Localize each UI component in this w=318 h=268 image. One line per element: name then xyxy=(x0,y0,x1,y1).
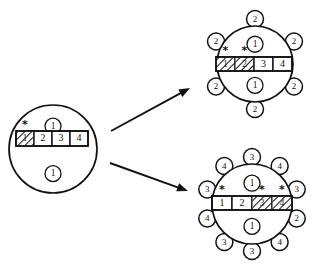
bar-cell-label-2: 2 xyxy=(242,58,247,69)
pendant-token-3: 3 xyxy=(244,243,261,260)
arrow-shaft xyxy=(110,163,180,188)
star-marker: * xyxy=(22,118,28,131)
bar-cell-label-1: 1 xyxy=(220,197,225,208)
pendant-label: 3 xyxy=(250,246,255,256)
pendant-label: 2 xyxy=(214,36,219,46)
bar-cell-label-2: 2 xyxy=(41,132,46,143)
top-token-label: 1 xyxy=(51,121,56,131)
star-marker: * xyxy=(219,183,225,196)
bar-cell-label-1: 1 xyxy=(223,58,228,69)
arrow-head xyxy=(176,183,188,191)
pendant-label: 2 xyxy=(294,213,299,223)
bar-cell-label-1: 1 xyxy=(23,132,28,143)
pendant-label: 4 xyxy=(205,213,210,223)
bar-cell-label-3: 3 xyxy=(261,58,266,69)
pendant-label: 2 xyxy=(214,81,219,91)
arrow-to-upper-result xyxy=(111,88,190,131)
figure-svg: 111*234222222111*2*343443342343111*23*4* xyxy=(0,0,318,268)
left-source-node: 111*234 xyxy=(9,105,97,193)
bottom-token-label: 1 xyxy=(253,80,258,90)
lower-right-result-node: 3443342343111*23*4* xyxy=(199,149,305,260)
pendant-label: 4 xyxy=(277,161,282,171)
pendant-label: 3 xyxy=(222,237,227,247)
bar-cell-label-4: 4 xyxy=(280,197,285,208)
star-marker: * xyxy=(259,183,265,196)
upper-right-result-node: 222222111*2*34 xyxy=(208,11,303,118)
pendant-label: 2 xyxy=(292,81,297,91)
bar-cell-label-3: 3 xyxy=(59,132,64,143)
top-token-label: 1 xyxy=(253,39,258,49)
pendant-token-2: 2 xyxy=(247,101,264,118)
bar-cell-label-4: 4 xyxy=(77,132,82,143)
star-marker: * xyxy=(279,183,285,196)
pendant-label: 3 xyxy=(250,152,255,162)
nodes-layer: 111*234222222111*2*343443342343111*23*4* xyxy=(9,11,305,260)
arrows-layer xyxy=(110,88,190,191)
arrow-head xyxy=(178,88,190,97)
bar-cell-label-3: 3 xyxy=(260,197,265,208)
pendant-label: 2 xyxy=(253,14,258,24)
pendant-token-2: 2 xyxy=(247,11,264,28)
pendant-label: 2 xyxy=(253,104,258,114)
bottom-token-label: 1 xyxy=(51,168,56,178)
arrow-shaft xyxy=(111,92,183,131)
pendant-label: 2 xyxy=(292,36,297,46)
pendant-label: 3 xyxy=(205,184,210,194)
top-token-label: 1 xyxy=(250,178,255,188)
star-marker: * xyxy=(223,44,229,57)
pendant-label: 4 xyxy=(277,237,282,247)
star-marker: * xyxy=(242,44,248,57)
figure-canvas: 111*234222222111*2*343443342343111*23*4* xyxy=(0,0,318,268)
bar-cell-label-4: 4 xyxy=(280,58,285,69)
pendant-label: 3 xyxy=(294,184,299,194)
bottom-token-label: 1 xyxy=(250,221,255,231)
arrow-to-lower-result xyxy=(110,163,188,191)
bar-cell-label-2: 2 xyxy=(240,197,245,208)
pendant-label: 4 xyxy=(222,161,227,171)
pendant-token-3: 3 xyxy=(244,149,261,166)
